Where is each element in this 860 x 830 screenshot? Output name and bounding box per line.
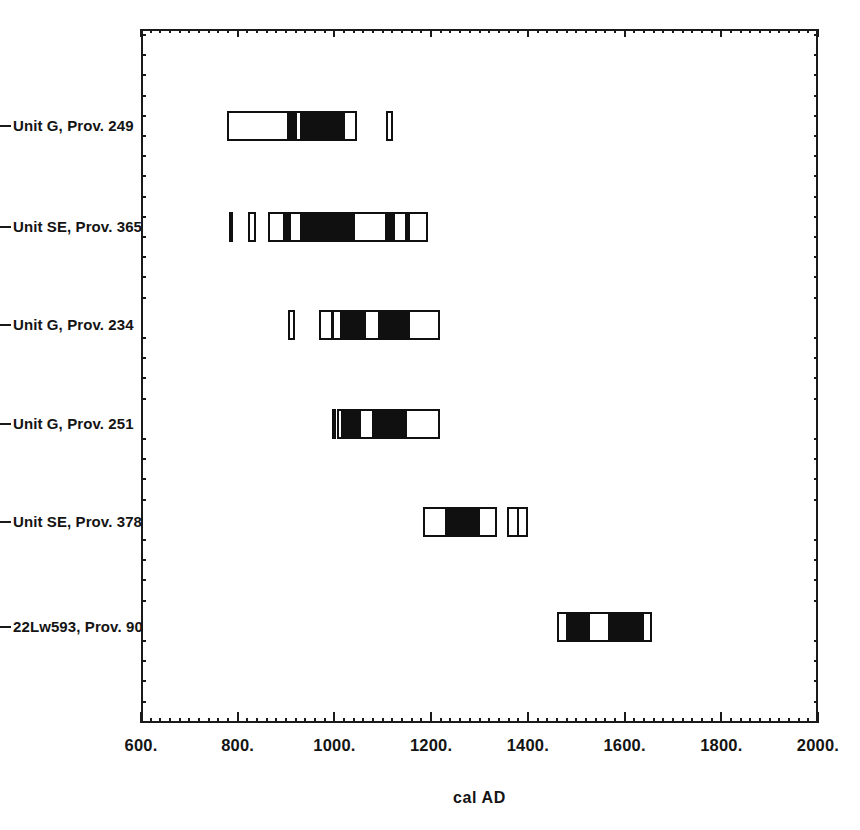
x-tick-minor [749, 718, 751, 723]
y-tick-minor [141, 499, 146, 501]
x-tick-minor [585, 718, 587, 723]
y-tick-minor [141, 337, 146, 339]
y-tick-right-minor [814, 398, 818, 400]
y-tick-right-minor [814, 640, 818, 642]
x-tick-minor [188, 718, 190, 723]
x-tick-label: 600. [96, 736, 186, 755]
y-category-label: 22Lw593, Prov. 90 [13, 618, 133, 635]
calibration-range-bar [268, 212, 428, 242]
x-tick-top-minor [798, 29, 800, 33]
x-tick-top-minor [769, 29, 771, 33]
x-tick-minor [537, 718, 539, 723]
x-tick-minor [672, 718, 674, 723]
x-tick-minor [208, 718, 210, 723]
x-tick-minor [295, 718, 297, 723]
x-tick-minor [691, 718, 693, 723]
x-tick-top-minor [759, 29, 761, 33]
x-tick-minor [285, 718, 287, 723]
x-tick-top-minor [324, 29, 326, 33]
y-tick-right-minor [814, 115, 818, 117]
x-tick-label: 800. [193, 736, 283, 755]
calibration-range-bar [332, 409, 336, 439]
y-tick-minor [141, 74, 146, 76]
y-tick-minor [141, 640, 146, 642]
x-tick-top-minor [546, 29, 548, 33]
x-tick-minor [469, 718, 471, 723]
x-tick-minor [546, 718, 548, 723]
x-tick-minor [566, 718, 568, 723]
y-tick-minor [141, 438, 146, 440]
y-tick-minor [141, 478, 146, 480]
x-tick-top-minor [459, 29, 461, 33]
x-tick-minor [759, 718, 761, 723]
x-tick-top-minor [585, 29, 587, 33]
x-tick-top-minor [179, 29, 181, 33]
y-category-label: Unit G, Prov. 234 [13, 316, 133, 333]
x-tick-minor [449, 718, 451, 723]
x-axis-title: cal AD [330, 789, 630, 807]
x-tick-top-minor [643, 29, 645, 33]
x-tick-major [430, 712, 432, 723]
x-tick-top-minor [208, 29, 210, 33]
high-probability-segment [300, 113, 345, 139]
x-tick-minor [488, 718, 490, 723]
x-tick-minor [324, 718, 326, 723]
x-tick-top-minor [682, 29, 684, 33]
y-tick-right-minor [814, 256, 818, 258]
calibration-range-bar [386, 111, 393, 141]
y-tick-right-major [0, 324, 8, 326]
high-probability-segment [341, 411, 361, 437]
x-tick-minor [778, 718, 780, 723]
x-tick-top-minor [256, 29, 258, 33]
x-tick-top-major [624, 29, 626, 37]
x-tick-minor [179, 718, 181, 723]
x-tick-minor [662, 718, 664, 723]
x-tick-minor [314, 718, 316, 723]
x-tick-top-minor [353, 29, 355, 33]
y-tick-right-minor [814, 660, 818, 662]
x-tick-top-minor [701, 29, 703, 33]
high-probability-segment [445, 509, 480, 535]
x-tick-top-minor [556, 29, 558, 33]
x-tick-minor [479, 718, 481, 723]
high-probability-segment [566, 614, 590, 640]
x-tick-top-minor [479, 29, 481, 33]
high-probability-segment [385, 214, 395, 240]
x-tick-top-minor [508, 29, 510, 33]
y-tick-right-minor [814, 196, 818, 198]
high-probability-segment [608, 614, 644, 640]
y-tick-minor [141, 600, 146, 602]
x-tick-minor [798, 718, 800, 723]
x-tick-minor [150, 718, 152, 723]
y-tick-minor [141, 135, 146, 137]
calibration-range-bar [227, 111, 357, 141]
y-tick-right-minor [814, 216, 818, 218]
x-tick-top-major [237, 29, 239, 37]
x-tick-minor [575, 718, 577, 723]
x-tick-top-minor [188, 29, 190, 33]
x-tick-minor [353, 718, 355, 723]
x-tick-top-minor [711, 29, 713, 33]
y-tick-minor [141, 297, 146, 299]
x-tick-minor [498, 718, 500, 723]
y-tick-right-minor [814, 377, 818, 379]
x-tick-minor [420, 718, 422, 723]
high-probability-segment [372, 411, 407, 437]
x-tick-minor [343, 718, 345, 723]
calibration-range-bar [423, 507, 497, 537]
x-tick-minor [275, 718, 277, 723]
x-tick-top-minor [449, 29, 451, 33]
x-tick-minor [256, 718, 258, 723]
y-tick-minor [141, 721, 146, 723]
x-tick-top-major [333, 29, 335, 37]
x-tick-major [720, 712, 722, 723]
x-tick-minor [517, 718, 519, 723]
x-tick-top-minor [391, 29, 393, 33]
y-tick-right-major [0, 423, 8, 425]
calibration-range-bar [229, 212, 233, 242]
x-tick-major [237, 712, 239, 723]
x-tick-minor [246, 718, 248, 723]
x-tick-top-minor [266, 29, 268, 33]
calibration-range-bar [337, 409, 440, 439]
y-tick-right-minor [814, 54, 818, 56]
